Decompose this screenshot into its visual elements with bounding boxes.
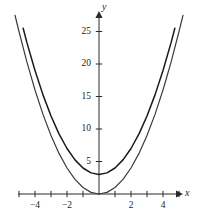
y-axis-arrow-icon bbox=[95, 11, 102, 18]
x-axis-label: x bbox=[185, 187, 189, 198]
y-tick-label: 5 bbox=[65, 157, 91, 167]
y-tick-label: 25 bbox=[65, 27, 91, 37]
y-tick-label: 10 bbox=[65, 124, 91, 134]
y-tick-label: 15 bbox=[65, 92, 91, 102]
x-tick-label: 4 bbox=[151, 201, 175, 211]
y-axis-label: y bbox=[102, 1, 106, 12]
x-tick-label: 2 bbox=[119, 201, 143, 211]
parabola-figure: −4−224 510152025 x y bbox=[0, 0, 198, 221]
chart-canvas bbox=[0, 0, 198, 221]
x-tick-label: −4 bbox=[23, 201, 47, 211]
y-tick-label: 20 bbox=[65, 59, 91, 69]
x-tick-label: −2 bbox=[55, 201, 79, 211]
